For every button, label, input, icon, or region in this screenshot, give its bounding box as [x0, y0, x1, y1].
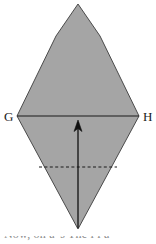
vertex-label-g: G: [4, 109, 13, 124]
caption-clipped-strip: Now, on a 's The l l a: [0, 236, 156, 244]
figure-root: G H Now, on a 's The l l a: [0, 0, 156, 244]
vertex-label-h: H: [143, 109, 152, 124]
rhombus-diagram-canvas: G H: [0, 0, 156, 244]
caption-text: Now, on a 's The l l a: [4, 236, 156, 242]
